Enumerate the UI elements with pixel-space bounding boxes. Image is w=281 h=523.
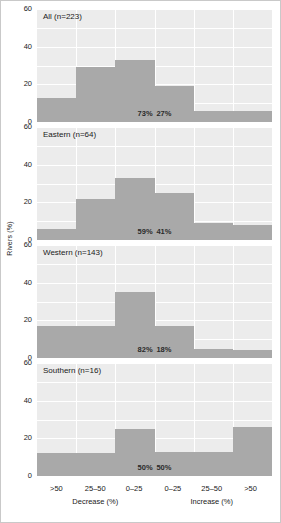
panel-stack: 0204060All (n=223)73%27%0204060Eastern (… xyxy=(17,9,272,479)
bar xyxy=(233,427,272,476)
pct-decrease-label: 73% xyxy=(138,109,153,118)
chart-panel: 0204060Southern (n=16)50%50% xyxy=(17,363,272,476)
bar xyxy=(76,326,115,358)
y-tick-label: 20 xyxy=(24,317,32,325)
bar xyxy=(76,199,115,240)
y-tick-label: 40 xyxy=(24,397,32,405)
bar xyxy=(76,67,115,122)
bar xyxy=(37,453,76,476)
x-tick-label: 0–25 xyxy=(115,484,154,493)
x-tick-label: >50 xyxy=(37,484,76,493)
y-tick-label: 40 xyxy=(24,43,32,51)
x-tick-labels: >5025–500–250–2525–50>50 xyxy=(37,484,270,493)
x-tick-label: 25–50 xyxy=(76,484,115,493)
panel-title: All (n=223) xyxy=(43,12,82,21)
y-tick-label: 20 xyxy=(24,435,32,443)
x-tick-label: >50 xyxy=(231,484,270,493)
chart-panel: 0204060All (n=223)73%27% xyxy=(17,9,272,122)
y-axis: 0204060 xyxy=(17,245,35,358)
y-axis-title: Rivers (%) xyxy=(6,209,13,269)
bar xyxy=(194,223,233,240)
panel-title: Western (n=143) xyxy=(43,248,103,257)
bar xyxy=(37,229,76,240)
pct-increase-label: 27% xyxy=(156,109,171,118)
chart-panel: 0204060Eastern (n=64)59%41% xyxy=(17,127,272,240)
y-tick-label: 60 xyxy=(24,359,32,367)
x-group-label: Decrease (%) xyxy=(37,497,154,506)
plot-area: Eastern (n=64)59%41% xyxy=(37,127,272,240)
bar-series xyxy=(37,9,272,122)
bar xyxy=(194,111,233,122)
pct-decrease-label: 59% xyxy=(138,227,153,236)
y-axis: 0204060 xyxy=(17,127,35,240)
pct-increase-label: 18% xyxy=(156,345,171,354)
plot-area: Southern (n=16)50%50% xyxy=(37,363,272,476)
bar-series xyxy=(37,127,272,240)
x-axis: >5025–500–250–2525–50>50 Decrease (%)Inc… xyxy=(37,484,270,516)
chart-panel: 0204060Western (n=143)82%18% xyxy=(17,245,272,358)
x-group-label: Increase (%) xyxy=(154,497,271,506)
bar xyxy=(233,350,272,358)
bar xyxy=(233,225,272,240)
bar xyxy=(194,349,233,358)
y-tick-label: 20 xyxy=(24,199,32,207)
y-tick-label: 60 xyxy=(24,123,32,131)
y-tick-label: 60 xyxy=(24,5,32,13)
y-tick-label: 20 xyxy=(24,81,32,89)
bar xyxy=(37,98,76,122)
panel-title: Eastern (n=64) xyxy=(43,130,96,139)
y-axis: 0204060 xyxy=(17,9,35,122)
pct-increase-label: 50% xyxy=(156,463,171,472)
figure-panel-chart: Rivers (%) 0204060All (n=223)73%27%02040… xyxy=(0,0,281,523)
bar xyxy=(233,111,272,122)
bar-series xyxy=(37,245,272,358)
plot-area: All (n=223)73%27% xyxy=(37,9,272,122)
y-tick-label: 40 xyxy=(24,161,32,169)
bar xyxy=(37,326,76,358)
pct-decrease-label: 82% xyxy=(138,345,153,354)
x-tick-label: 25–50 xyxy=(192,484,231,493)
panel-title: Southern (n=16) xyxy=(43,366,101,375)
bar xyxy=(76,453,115,476)
x-tick-label: 0–25 xyxy=(153,484,192,493)
x-group-labels: Decrease (%)Increase (%) xyxy=(37,497,270,506)
bar-series xyxy=(37,363,272,476)
pct-increase-label: 41% xyxy=(156,227,171,236)
y-tick-label: 40 xyxy=(24,279,32,287)
y-tick-label: 0 xyxy=(28,472,32,480)
y-tick-label: 60 xyxy=(24,241,32,249)
pct-decrease-label: 50% xyxy=(138,463,153,472)
y-axis: 0204060 xyxy=(17,363,35,476)
plot-area: Western (n=143)82%18% xyxy=(37,245,272,358)
bar xyxy=(194,452,233,476)
